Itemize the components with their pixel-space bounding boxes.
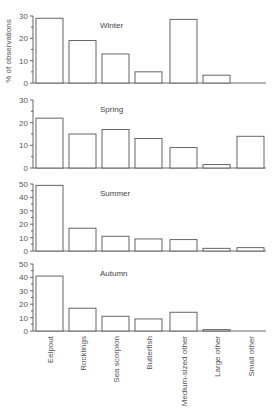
bar-eelpout — [36, 118, 63, 168]
bar-sea-scorpion — [102, 236, 129, 251]
category-label: Medium-sized other — [180, 336, 189, 407]
y-tick-label: 50 — [19, 180, 28, 189]
y-tick-label: 40 — [19, 273, 28, 282]
bar-butterfish — [135, 72, 162, 83]
y-tick-label: 10 — [19, 314, 28, 323]
panel-title: Summer — [100, 189, 131, 198]
panel-spring: 0102030Spring — [19, 96, 266, 173]
panel-winter: 0102030Winter — [19, 12, 266, 88]
bar-eelpout — [36, 185, 63, 251]
bar-medium-sized-other — [170, 240, 197, 251]
bar-rocklings — [69, 134, 96, 168]
bar-butterfish — [135, 239, 162, 251]
y-tick-label: 0 — [24, 79, 29, 88]
y-tick-label: 30 — [19, 207, 28, 216]
y-tick-label: 50 — [19, 260, 28, 269]
bar-small-other — [237, 136, 264, 168]
bar-small-other — [237, 248, 264, 251]
category-label: Large other — [213, 336, 222, 377]
y-tick-label: 20 — [19, 119, 28, 128]
y-tick-label: 30 — [19, 96, 28, 105]
y-tick-label: 20 — [19, 220, 28, 229]
bar-large-other — [203, 330, 230, 331]
y-tick-label: 10 — [19, 234, 28, 243]
bar-medium-sized-other — [170, 148, 197, 168]
y-axis-label: % of observations — [4, 19, 13, 83]
bar-large-other — [203, 248, 230, 251]
y-tick-label: 30 — [19, 287, 28, 296]
y-tick-label: 30 — [19, 12, 28, 21]
bar-rocklings — [69, 41, 96, 83]
bar-rocklings — [69, 308, 96, 331]
y-tick-label: 0 — [24, 164, 29, 173]
bar-large-other — [203, 165, 230, 168]
bar-butterfish — [135, 319, 162, 331]
bar-medium-sized-other — [170, 19, 197, 83]
y-tick-label: 10 — [19, 57, 28, 66]
bar-sea-scorpion — [102, 316, 129, 331]
chart-panels: 0102030Winter0102030Spring01020304050Sum… — [19, 12, 266, 336]
bar-butterfish — [135, 139, 162, 168]
bar-eelpout — [36, 276, 63, 331]
category-label: Eelpout — [46, 335, 55, 363]
bar-medium-sized-other — [170, 312, 197, 331]
y-tick-label: 20 — [19, 300, 28, 309]
y-tick-label: 20 — [19, 34, 28, 43]
bar-eelpout — [36, 18, 63, 83]
y-tick-label: 0 — [24, 247, 29, 256]
category-label: Small other — [247, 336, 256, 377]
category-label: Rocklings — [79, 336, 88, 371]
bar-sea-scorpion — [102, 129, 129, 168]
y-tick-label: 40 — [19, 193, 28, 202]
category-label: Sea scorpion — [112, 336, 121, 383]
panel-title: Winter — [100, 21, 123, 30]
panel-title: Autumn — [100, 269, 128, 278]
bar-rocklings — [69, 228, 96, 251]
category-label: Butterfish — [145, 336, 154, 370]
panel-summer: 01020304050Summer — [19, 180, 266, 256]
bar-large-other — [203, 75, 230, 83]
seasonal-bar-chart: 0102030Winter0102030Spring01020304050Sum… — [0, 0, 276, 418]
panel-title: Spring — [100, 105, 123, 114]
y-tick-label: 0 — [24, 327, 29, 336]
y-tick-label: 10 — [19, 141, 28, 150]
bar-sea-scorpion — [102, 54, 129, 83]
panel-autumn: 01020304050Autumn — [19, 260, 266, 336]
category-labels: EelpoutRocklingsSea scorpionButterfishMe… — [46, 335, 256, 406]
